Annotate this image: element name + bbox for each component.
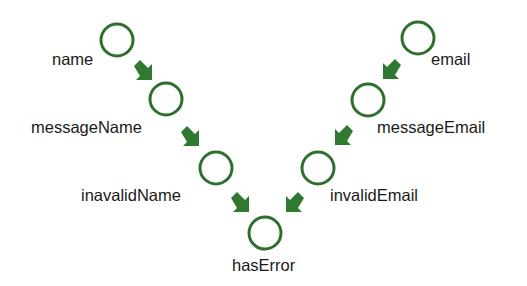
node-label-inavalidName: inavalidName — [81, 186, 181, 204]
node-label-messageName: messageName — [31, 118, 142, 136]
arrow-down-left-icon — [383, 59, 401, 79]
node-label-invalidEmail: invalidEmail — [330, 186, 418, 204]
node-invalidEmail-circle — [302, 152, 334, 184]
arrow-down-right-icon — [134, 60, 152, 80]
node-label-messageEmail: messageEmail — [377, 118, 485, 136]
node-messageEmail-circle — [352, 84, 384, 116]
arrow-down-left-icon — [335, 125, 353, 145]
dependency-diagram — [0, 0, 527, 286]
node-messageName-circle — [150, 83, 182, 115]
arrow-down-left-icon — [286, 192, 304, 212]
arrow-down-right-icon — [231, 192, 249, 212]
node-hasError-circle — [249, 217, 281, 249]
node-label-email: email — [431, 50, 470, 68]
node-inavalidName-circle — [200, 152, 232, 184]
node-email-circle — [402, 22, 434, 54]
node-label-name: name — [52, 50, 93, 68]
node-name-circle — [101, 24, 133, 56]
node-label-hasError: hasError — [232, 256, 295, 274]
arrow-down-right-icon — [181, 126, 199, 146]
